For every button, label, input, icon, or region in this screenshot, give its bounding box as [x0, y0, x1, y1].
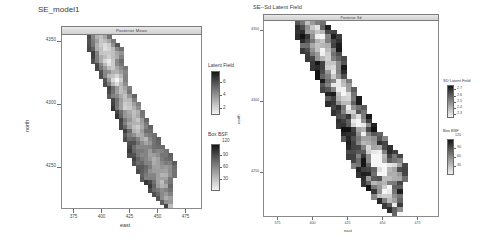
x-tick-label: 475 — [173, 214, 198, 219]
x-tick-label: 425 — [337, 221, 358, 225]
raster-cell — [402, 176, 408, 182]
legend-sd-latent-field-title: SD Latent Field — [443, 78, 471, 83]
x-tick — [101, 209, 102, 213]
x-tick-label: 375 — [267, 221, 288, 225]
panel-right-strip-label: Posterior Sd — [340, 16, 361, 20]
y-axis-title: north — [24, 120, 30, 132]
legend-tick — [454, 148, 456, 149]
x-tick — [73, 209, 74, 213]
panel-left-plot-area[interactable] — [61, 35, 202, 209]
y-tick-label: 4250 — [32, 163, 56, 168]
legend-latent-field-ramp — [211, 71, 220, 115]
panel-left-strip: Posterior Mean — [61, 26, 202, 35]
x-tick-label: 450 — [372, 221, 393, 225]
legend-tick-label: 30 — [457, 163, 461, 167]
y-tick — [57, 41, 61, 42]
y-tick — [57, 167, 61, 168]
x-axis-title: east — [120, 222, 130, 228]
legend-box-bsf-ramp — [447, 139, 454, 175]
legend-tick — [220, 108, 222, 109]
legend-tick-label: 120 — [222, 138, 230, 143]
panel-right-plot-area[interactable] — [263, 21, 439, 217]
legend-tick — [454, 166, 456, 167]
panel-left-title: SE_model1 — [38, 5, 79, 14]
legend-box-bsf-ramp — [211, 144, 220, 191]
y-tick-label: 4250 — [240, 169, 259, 173]
x-tick-label: 425 — [117, 214, 142, 219]
legend-tick — [220, 167, 222, 168]
legend-tick — [454, 108, 456, 109]
legend-box-bsf-title: Box BSF — [208, 131, 228, 137]
x-tick — [382, 217, 383, 220]
legend-tick-label: 90 — [457, 145, 461, 149]
y-tick-label: 4300 — [32, 100, 56, 105]
legend-tick — [220, 179, 222, 180]
x-tick — [312, 217, 313, 220]
legend-tick-label: 4 — [223, 92, 226, 97]
panel-left-strip-label: Posterior Mean — [116, 28, 147, 33]
latent-field-raster — [62, 35, 201, 208]
legend-tick — [454, 114, 456, 115]
x-tick — [277, 217, 278, 220]
x-tick — [417, 217, 418, 220]
x-tick-label: 450 — [145, 214, 170, 219]
legend-sd-latent-field-ramp — [447, 85, 454, 118]
legend-tick — [220, 95, 222, 96]
x-tick-label: 400 — [89, 214, 114, 219]
y-tick-label: 4350 — [32, 37, 56, 42]
legend-tick — [454, 157, 456, 158]
panel-right-strip: Posterior Sd — [263, 14, 439, 21]
raster-cell — [168, 204, 173, 209]
figure-canvas: SE_model1 Posterior Mean 4350 4300 4250 … — [0, 0, 493, 246]
raster-cell — [397, 212, 403, 217]
legend-tick-label: 120 — [455, 133, 461, 137]
legend-tick — [454, 89, 456, 90]
legend-tick-label: 6 — [223, 79, 226, 84]
legend-tick-label: 60 — [223, 164, 228, 169]
x-tick — [129, 209, 130, 213]
legend-tick — [454, 102, 456, 103]
x-tick — [185, 209, 186, 213]
sd-latent-field-raster — [264, 21, 438, 216]
legend-tick-label: 2.4 — [457, 105, 462, 109]
y-tick — [57, 104, 61, 105]
y-tick — [260, 172, 263, 173]
x-tick-label: 400 — [302, 221, 323, 225]
legend-tick-label: 2.7 — [457, 86, 462, 90]
legend-tick — [220, 155, 222, 156]
legend-tick — [454, 96, 456, 97]
legend-tick-label: 2.3 — [457, 111, 462, 115]
x-tick-label: 475 — [407, 221, 428, 225]
legend-tick-label: 2 — [223, 105, 226, 110]
x-tick-label: 375 — [61, 214, 86, 219]
y-tick — [260, 30, 263, 31]
legend-tick — [220, 82, 222, 83]
legend-tick-label: 2.5 — [457, 99, 462, 103]
y-tick — [260, 101, 263, 102]
x-tick — [157, 209, 158, 213]
legend-tick-label: 2.6 — [457, 93, 462, 97]
y-tick-label: 4300 — [240, 98, 259, 102]
legend-tick-label: 90 — [223, 152, 228, 157]
y-axis-title: north — [236, 114, 241, 124]
legend-tick-label: 60 — [457, 154, 461, 158]
legend-latent-field-title: Latent Field — [208, 62, 234, 68]
y-tick-label: 4350 — [240, 27, 259, 31]
legend-tick-label: 30 — [223, 176, 228, 181]
panel-right-title: SE--Sd Latent Field — [253, 4, 302, 10]
x-axis-title: east — [344, 228, 352, 233]
x-tick — [347, 217, 348, 220]
